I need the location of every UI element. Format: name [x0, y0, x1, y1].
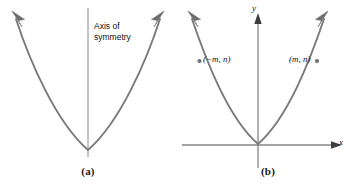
- x-axis-label: x: [339, 137, 343, 147]
- axis-of-symmetry-label: Axis of symmetry: [94, 21, 154, 43]
- caption-b: (b): [248, 165, 288, 177]
- y-axis-label: y: [252, 3, 256, 13]
- point-marker-right: [315, 59, 319, 63]
- point-label-right: (m, n): [289, 54, 311, 64]
- panel-a: Axis of symmetry (a): [0, 0, 176, 187]
- y-axis-arrowhead: [254, 13, 261, 24]
- axis-of-symmetry-label-line1: Axis of: [94, 21, 154, 32]
- panel-b: (−m, n) (m, n) y x (b): [176, 0, 353, 187]
- point-label-left: (−m, n): [203, 54, 231, 64]
- figure-root: Axis of symmetry (a) (−m, n) (m, n) y: [0, 0, 353, 187]
- panel-b-graphic: [176, 0, 353, 187]
- axis-of-symmetry-label-line2: symmetry: [94, 32, 154, 43]
- caption-a: (a): [68, 165, 108, 177]
- point-marker-left: [197, 59, 201, 63]
